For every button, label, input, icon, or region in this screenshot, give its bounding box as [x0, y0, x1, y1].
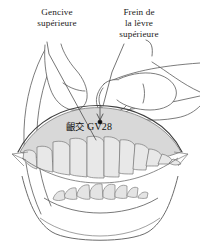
label-gencive-line-1: Gencive — [18, 7, 96, 18]
leader-bracket-frein — [146, 40, 152, 56]
label-gencive-superieure: Gencive supérieure — [18, 7, 96, 29]
label-frein-line-2: la lèvre — [100, 18, 178, 29]
tooth-lower — [103, 184, 115, 199]
tooth-lower — [138, 192, 148, 198]
tooth-upper — [104, 137, 120, 177]
thumb-group — [45, 44, 87, 110]
label-frein-line-3: supérieure — [100, 29, 178, 40]
acupoint-chinese-name: 齦交 — [66, 121, 84, 132]
tooth-upper — [119, 140, 135, 174]
illustration-figure: Gencive supérieure Frein de la lèvre sup… — [0, 0, 200, 246]
label-frein-levre-superieure: Frein de la lèvre supérieure — [100, 7, 178, 40]
acupoint-label: 齦交GV28 — [66, 119, 112, 133]
tooth-upper — [53, 141, 70, 175]
corner-right-line-2 — [176, 154, 188, 160]
tooth-lower — [90, 184, 103, 200]
lower-teeth-row — [53, 184, 148, 201]
corner-left-line-3 — [12, 154, 24, 166]
label-gencive-line-2: supérieure — [18, 18, 96, 29]
label-frein-line-1: Frein de — [100, 7, 178, 18]
middle-finger-outline — [117, 73, 176, 110]
tooth-upper — [70, 138, 87, 177]
tooth-upper — [87, 136, 104, 178]
corner-right-line-3 — [178, 154, 188, 166]
thumb-outline — [45, 44, 87, 110]
acupoint-code: GV28 — [87, 121, 112, 132]
tooth-lower — [64, 188, 77, 200]
tooth-lower — [77, 185, 90, 199]
tooth-lower — [115, 185, 127, 198]
tooth-lower — [53, 191, 65, 201]
tooth-lower — [127, 187, 138, 197]
chin-crease — [40, 218, 160, 236]
